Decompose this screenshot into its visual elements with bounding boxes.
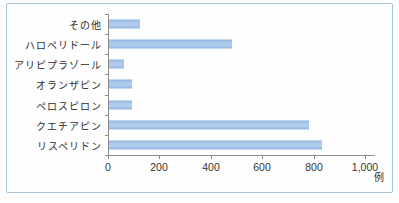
bar	[109, 100, 132, 109]
y-axis-tick	[105, 74, 108, 75]
bar	[109, 80, 132, 89]
bar-row: オランザピン	[7, 74, 392, 94]
category-label: クエチアピン	[7, 117, 102, 132]
x-axis-unit-label: 例	[374, 169, 384, 184]
y-axis-line	[108, 14, 109, 155]
x-axis-tick-label: 200	[150, 161, 168, 173]
x-axis-tick	[108, 155, 109, 159]
y-axis-tick	[105, 14, 108, 15]
x-axis-tick	[159, 155, 160, 159]
bar-row: ハロペリドール	[7, 34, 392, 54]
category-label: ハロペリドール	[7, 37, 102, 52]
y-axis-tick	[105, 54, 108, 55]
bar-row: リスペリドン	[7, 135, 392, 155]
bar-row: その他	[7, 14, 392, 34]
x-axis-line	[108, 155, 375, 156]
x-axis-tick	[262, 155, 263, 159]
bar	[109, 140, 322, 149]
x-axis-tick	[314, 155, 315, 159]
bar-chart-figure: その他ハロペリドールアリピプラゾールオランザピンペロスピロンクエチアピンリスペリ…	[0, 0, 399, 203]
x-axis-tick-label: 0	[105, 161, 111, 173]
y-axis-tick	[105, 155, 108, 156]
x-axis-tick-label: 400	[202, 161, 220, 173]
bar	[109, 120, 309, 129]
category-label: ペロスピロン	[7, 97, 102, 112]
category-label: オランザピン	[7, 77, 102, 92]
y-axis-tick	[105, 115, 108, 116]
category-label: アリピプラゾール	[7, 57, 102, 72]
x-axis-tick-label: 600	[253, 161, 271, 173]
y-axis-tick	[105, 135, 108, 136]
bar	[109, 40, 232, 49]
x-axis-tick	[365, 155, 366, 159]
bar	[109, 60, 124, 69]
category-label: その他	[7, 17, 102, 32]
y-axis-tick	[105, 34, 108, 35]
chart-frame: その他ハロペリドールアリピプラゾールオランザピンペロスピロンクエチアピンリスペリ…	[6, 3, 393, 193]
bar-row: アリピプラゾール	[7, 54, 392, 74]
category-label: リスペリドン	[7, 137, 102, 152]
bar-row: ペロスピロン	[7, 95, 392, 115]
bar	[109, 20, 140, 29]
bar-row: クエチアピン	[7, 115, 392, 135]
x-axis-tick-label: 800	[305, 161, 323, 173]
y-axis-tick	[105, 95, 108, 96]
x-axis-tick	[211, 155, 212, 159]
